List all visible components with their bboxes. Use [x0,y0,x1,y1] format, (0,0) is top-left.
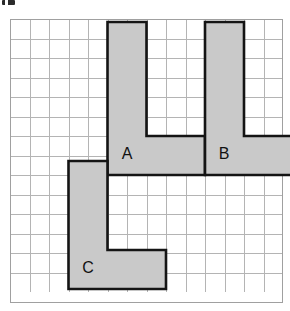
figure-root: A B C [0,0,290,311]
shape-label-c: C [82,259,94,276]
clipped-label-artifact [2,0,15,5]
shape-label-a: A [122,145,133,162]
l-shape-b-group[interactable]: B [205,22,290,175]
shapes-svg: A B C [10,19,283,303]
l-shape-a-group[interactable]: A [108,22,206,175]
shape-label-b: B [219,145,230,162]
l-shape-c-group[interactable]: C [69,161,167,289]
shapes-layer: A B C [10,19,283,303]
